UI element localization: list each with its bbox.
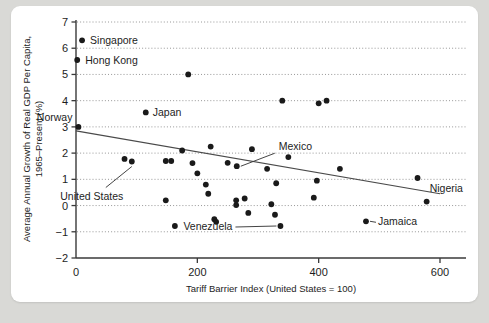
- x-axis-title: Tariff Barrier Index (United States = 10…: [186, 283, 356, 294]
- x-tick-label-600: 600: [431, 266, 449, 278]
- data-point: [268, 201, 274, 207]
- chart-screenshot: −2−101234567 0200400600 SingaporeHong Ko…: [0, 0, 489, 323]
- mexico-label: Mexico: [279, 140, 312, 152]
- data-point: [168, 158, 174, 164]
- x-axis-ticks: 0200400600: [73, 258, 449, 278]
- x-tick-label-200: 200: [188, 266, 206, 278]
- data-point: [242, 196, 248, 202]
- jamaica-leader-line: [370, 221, 376, 222]
- y-axis-ticks: −2−101234567: [55, 16, 76, 264]
- data-point: [272, 212, 278, 218]
- annotation-leader-lines: [106, 153, 376, 227]
- y-tick-label-2: 2: [62, 147, 68, 159]
- united-states-label: United States: [60, 190, 123, 202]
- data-point: [172, 223, 178, 229]
- y-tick-label-5: 5: [62, 68, 68, 80]
- hong-kong-label: Hong Kong: [85, 54, 138, 66]
- y-axis-title-line2: 1965–Present (%): [33, 101, 44, 178]
- data-point-singapore: [79, 37, 85, 43]
- japan-label: Japan: [153, 106, 182, 118]
- data-point-venezuela: [278, 223, 284, 229]
- scatter-plot: −2−101234567 0200400600 SingaporeHong Ko…: [0, 0, 489, 323]
- data-point: [122, 156, 128, 162]
- data-point-mexico: [234, 163, 240, 169]
- data-point: [245, 210, 251, 216]
- venezuela-leader-line: [235, 226, 276, 227]
- data-point-united-states: [129, 159, 135, 165]
- data-point-japan: [143, 110, 149, 116]
- data-point: [415, 175, 421, 181]
- y-tick-label--1: −1: [55, 226, 68, 238]
- data-point-hong-kong: [74, 57, 80, 63]
- data-point: [316, 100, 322, 106]
- y-tick-label-4: 4: [62, 95, 68, 107]
- y-axis-title-line1: Average Annual Growth of Real GDP Per Ca…: [21, 36, 32, 242]
- data-point: [233, 202, 239, 208]
- united-states-leader-line: [106, 167, 132, 188]
- data-point: [285, 154, 291, 160]
- data-point: [163, 158, 169, 164]
- data-point: [208, 144, 214, 150]
- data-point: [264, 166, 270, 172]
- data-point: [225, 160, 231, 166]
- point-labels: SingaporeHong KongJapanNorwayUnited Stat…: [37, 34, 463, 232]
- data-point: [324, 98, 330, 104]
- jamaica-label: Jamaica: [378, 215, 417, 227]
- x-tick-label-400: 400: [309, 266, 327, 278]
- data-point: [205, 191, 211, 197]
- y-tick-label-1: 1: [62, 173, 68, 185]
- data-point-jamaica: [363, 218, 369, 224]
- y-tick-label-7: 7: [62, 16, 68, 28]
- data-point-nigeria: [424, 199, 430, 205]
- data-point-norway: [76, 124, 82, 130]
- data-point: [273, 180, 279, 186]
- data-point: [203, 182, 209, 188]
- data-point: [311, 195, 317, 201]
- data-points: [74, 37, 429, 228]
- data-point: [249, 146, 255, 152]
- data-point: [337, 166, 343, 172]
- singapore-label: Singapore: [90, 34, 138, 46]
- data-point: [314, 178, 320, 184]
- data-point: [190, 160, 196, 166]
- data-point: [179, 148, 185, 154]
- nigeria-label: Nigeria: [430, 182, 463, 194]
- data-point: [163, 197, 169, 203]
- y-axis-title: Average Annual Growth of Real GDP Per Ca…: [21, 36, 44, 242]
- y-tick-label-6: 6: [62, 42, 68, 54]
- x-tick-label-0: 0: [73, 266, 79, 278]
- data-point: [194, 170, 200, 176]
- data-point: [279, 98, 285, 104]
- data-point: [185, 72, 191, 78]
- venezuela-label: Venezuela: [183, 220, 232, 232]
- y-tick-label--2: −2: [55, 252, 68, 264]
